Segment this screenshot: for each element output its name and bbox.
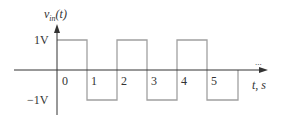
x-axis-arrow-icon: [259, 67, 268, 73]
x-tick-label: 4: [181, 74, 187, 88]
square-wave-diagram: vin(t) 1V −1V 0 1 2 3 4 5 ... t, s: [0, 0, 281, 125]
x-tick-label: 5: [211, 74, 217, 88]
x-tick-label: 0: [62, 74, 68, 88]
y-tick-label-low: −1V: [27, 93, 49, 107]
x-tick-label: 2: [121, 74, 127, 88]
continuation-mark: ...: [255, 57, 262, 67]
y-tick-label-high: 1V: [34, 33, 49, 47]
x-axis-label: t, s: [252, 78, 266, 92]
x-tick-label: 3: [151, 74, 157, 88]
y-axis-label: vin(t): [44, 7, 67, 23]
y-axis-arrow-icon: [54, 24, 60, 33]
x-tick-label: 1: [91, 74, 97, 88]
